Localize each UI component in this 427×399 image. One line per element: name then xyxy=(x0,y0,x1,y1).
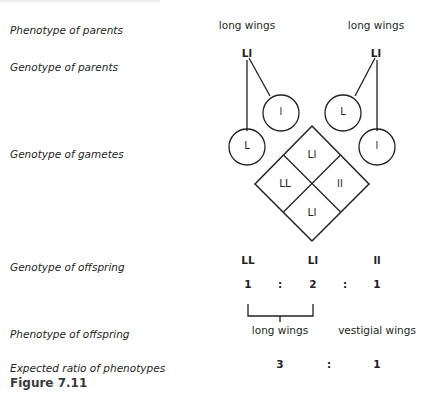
ratio-sep-1: : xyxy=(278,278,282,290)
parent2-phenotype: long wings xyxy=(348,19,404,31)
offspring-genotype-ll: ll xyxy=(373,254,380,266)
phenotype-ratio-3: 3 xyxy=(276,358,283,370)
offspring-phenotype-vestigial: vestigial wings xyxy=(338,324,416,336)
gamete-3: L xyxy=(340,106,346,117)
ratio-3: 1 xyxy=(373,278,380,290)
ratio-1: 1 xyxy=(244,278,251,290)
parent1-phenotype: long wings xyxy=(219,19,275,31)
gamete-4: l xyxy=(376,140,379,151)
cross-diagram-lines xyxy=(0,0,427,399)
punnett-left: LL xyxy=(279,177,291,189)
parent2-genotype: Ll xyxy=(371,47,381,59)
offspring-genotype-Ll: Ll xyxy=(308,254,318,266)
offspring-phenotype-long: long wings xyxy=(252,324,308,336)
offspring-genotype-LL: LL xyxy=(241,254,254,266)
gamete-2: l xyxy=(280,106,283,117)
figure-caption: Figure 7.11 xyxy=(10,376,87,390)
punnett-bottom: Ll xyxy=(308,206,317,218)
punnett-top: Ll xyxy=(308,148,317,160)
gamete-1: L xyxy=(244,140,250,151)
phenotype-ratio-1: 1 xyxy=(373,358,380,370)
ratio-sep-2: : xyxy=(343,278,347,290)
ratio-2: 2 xyxy=(309,278,316,290)
phenotype-ratio-sep: : xyxy=(327,358,331,370)
parent1-genotype: Ll xyxy=(242,47,252,59)
punnett-right: ll xyxy=(337,177,343,189)
